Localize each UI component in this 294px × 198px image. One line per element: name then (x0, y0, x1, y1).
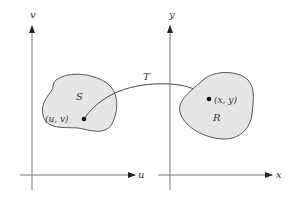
x-axis-label: x (276, 169, 282, 180)
uv-plane: v u S (u, v) (20, 9, 144, 190)
xy-plane: y x (x, y) R (158, 9, 282, 190)
transformation-label: T (143, 71, 151, 82)
y-axis-label: y (168, 9, 175, 20)
region-r-label: R (212, 112, 221, 123)
region-r (180, 73, 254, 140)
point-uv-label: (u, v) (45, 114, 69, 124)
transformation-diagram: v u S (u, v) T y x (x, y) R (0, 0, 294, 198)
point-xy (207, 97, 212, 102)
region-s-label: S (76, 91, 83, 102)
u-axis-label: u (138, 169, 144, 180)
v-axis-label: v (30, 9, 36, 20)
point-xy-label: (x, y) (214, 95, 237, 105)
